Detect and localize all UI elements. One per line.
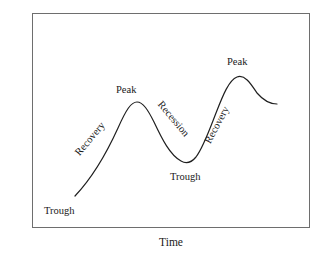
annotation-trough-1: Trough [44, 205, 75, 217]
annotation-peak-2: Peak [227, 56, 247, 68]
annotation-trough-2: Trough [170, 171, 201, 183]
annotation-peak-1: Peak [116, 84, 136, 96]
business-cycle-figure: Gross Domestic Product Time Trough Recov… [0, 0, 330, 254]
x-axis-title: Time [32, 234, 310, 250]
